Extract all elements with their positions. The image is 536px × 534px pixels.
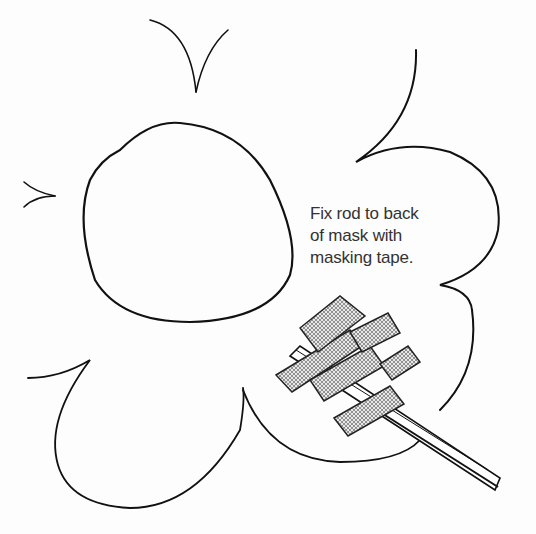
center-circle xyxy=(84,123,293,322)
top-notch-line xyxy=(150,20,196,92)
petal-left xyxy=(28,360,244,508)
caption-line-2: of mask with xyxy=(310,225,480,247)
caption-line-3: masking tape. xyxy=(310,247,480,269)
instruction-caption: Fix rod to back of mask with masking tap… xyxy=(310,203,480,269)
tape-strip-6 xyxy=(380,346,420,380)
left-notch-line xyxy=(24,182,55,196)
illustration-canvas: Fix rod to back of mask with masking tap… xyxy=(0,0,536,534)
caption-line-1: Fix rod to back xyxy=(310,203,480,225)
